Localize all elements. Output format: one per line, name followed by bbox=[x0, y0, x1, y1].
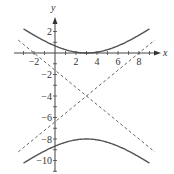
upper-branch-curve bbox=[24, 29, 150, 53]
x-tick-label: 4 bbox=[95, 56, 100, 67]
x-tick-label: −2 bbox=[29, 56, 40, 67]
y-axis-label: y bbox=[50, 2, 56, 13]
curves bbox=[18, 29, 155, 163]
y-tick-label: −10 bbox=[36, 155, 52, 166]
y-axis-arrow-icon bbox=[53, 17, 58, 24]
x-tick-label: 2 bbox=[74, 56, 79, 67]
hyperbola-plot: −224682−2−4−6−8−10 x y bbox=[0, 0, 174, 174]
y-tick-label: −8 bbox=[41, 134, 52, 145]
y-tick-label: −2 bbox=[41, 69, 52, 80]
x-axis-arrow-icon bbox=[154, 51, 161, 56]
y-tick-label: −4 bbox=[41, 91, 52, 102]
tick-labels: −224682−2−4−6−8−10 bbox=[29, 26, 142, 166]
axes bbox=[14, 17, 161, 172]
x-tick-label: 6 bbox=[116, 56, 121, 67]
y-tick-label: −6 bbox=[41, 112, 52, 123]
x-tick-label: 8 bbox=[137, 56, 142, 67]
x-axis-label: x bbox=[162, 47, 168, 58]
y-tick-label: 2 bbox=[47, 26, 52, 37]
